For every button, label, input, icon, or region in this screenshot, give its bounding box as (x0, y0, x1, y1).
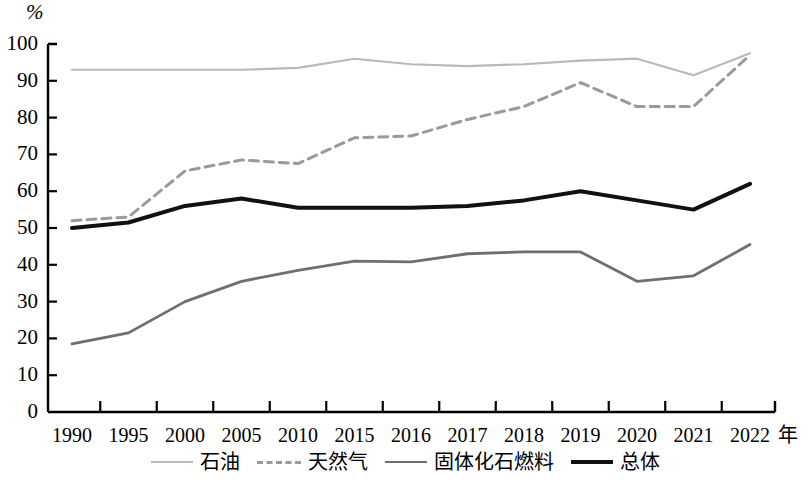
x-tick-label: 2020 (607, 425, 667, 445)
legend-swatch (385, 461, 427, 463)
x-tick-label: 2016 (381, 425, 441, 445)
legend-swatch (571, 460, 613, 464)
x-tick-label: 2019 (551, 425, 611, 445)
y-tick-label: 60 (0, 180, 38, 201)
x-tick-label: 2017 (438, 425, 498, 445)
x-axis-unit-label: 年 (778, 425, 798, 445)
legend-label: 固体化石燃料 (434, 452, 554, 472)
x-tick-label: 2021 (664, 425, 724, 445)
y-tick-label: 90 (0, 70, 38, 91)
x-tick-label: 2010 (268, 425, 328, 445)
x-tick-label: 2000 (155, 425, 215, 445)
y-tick-label: 20 (0, 327, 38, 348)
series-line-0 (72, 53, 750, 75)
legend-label: 总体 (620, 452, 660, 472)
x-tick-label: 2022 (720, 425, 780, 445)
y-tick-label: 80 (0, 107, 38, 128)
y-tick-label: 10 (0, 364, 38, 385)
legend-item[interactable]: 天然气 (257, 452, 368, 472)
legend-item[interactable]: 石油 (151, 452, 240, 472)
legend-item[interactable]: 总体 (571, 452, 660, 472)
chart-legend: 石油天然气固体化石燃料总体 (0, 452, 810, 472)
x-tick-label: 1990 (42, 425, 102, 445)
y-tick-label: 50 (0, 217, 38, 238)
legend-swatch (151, 461, 193, 463)
legend-item[interactable]: 固体化石燃料 (385, 452, 554, 472)
legend-label: 石油 (200, 452, 240, 472)
chart-container: % 年 石油天然气固体化石燃料总体 0102030405060708090100… (0, 0, 810, 480)
chart-plot-svg (0, 0, 810, 480)
x-tick-label: 2005 (212, 425, 272, 445)
legend-swatch (257, 461, 301, 464)
y-tick-label: 30 (0, 291, 38, 312)
series-line-2 (72, 245, 750, 344)
x-tick-label: 1995 (99, 425, 159, 445)
y-tick-label: 70 (0, 143, 38, 164)
series-line-3 (72, 184, 750, 228)
y-tick-label: 0 (0, 401, 38, 422)
legend-label: 天然气 (308, 452, 368, 472)
y-tick-label: 40 (0, 254, 38, 275)
series-line-1 (72, 55, 750, 221)
x-tick-label: 2018 (494, 425, 554, 445)
x-tick-label: 2015 (325, 425, 385, 445)
y-tick-label: 100 (0, 33, 38, 54)
